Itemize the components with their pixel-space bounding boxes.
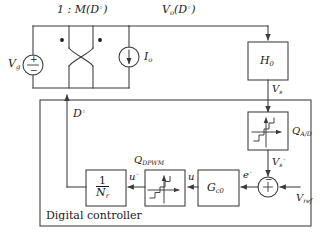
error-signal-label: e◦ [243,170,253,180]
source-minus-sign: − [30,66,38,75]
vref-label: Vref [296,193,312,204]
inverse-nr-denominator: Nr [96,186,109,200]
gc0-block-label: Gc0 [207,182,224,195]
source-plus-sign: + [30,55,38,64]
diagram-canvas: 1 : M(D◦) Vo(D◦) Vg + − Io H0 Vs D◦ QA/D… [0,0,322,236]
transformer-ratio-label: 1 : M(D◦) [57,4,107,15]
inverse-nr-numerator: 1 [96,175,109,186]
sum-minus-sign: − [265,175,273,184]
load-current-label: Io [144,51,152,64]
qad-block-label: QA/D [292,126,312,137]
u-quantized-label: u◦ [129,172,139,182]
u-signal-label: u [188,172,194,182]
vs-signal-label: Vs [272,84,282,95]
qdpwm-block-label: QDPWM [134,155,164,166]
vs-quantized-label: Vs◦ [272,157,286,168]
inverse-nr-block-label: 1 Nr [96,175,109,200]
duty-cycle-label: D◦ [73,108,86,119]
output-voltage-label: Vo(D◦) [162,4,196,17]
diagram-vectors [0,0,322,236]
input-source-label: Vg [8,58,20,71]
digital-controller-label: Digital controller [46,210,142,221]
h0-block-label: H0 [260,55,274,68]
